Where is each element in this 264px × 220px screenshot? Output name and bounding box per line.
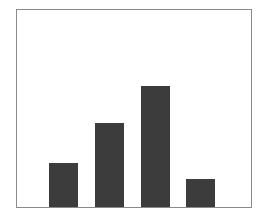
plot-area: 22426114 [16, 9, 252, 208]
bar-chart: 22426114 [0, 0, 264, 220]
bar-3: 61 [141, 86, 170, 207]
bar-1: 22 [49, 163, 78, 207]
bar-2: 42 [95, 123, 124, 207]
bar-4: 14 [186, 179, 215, 207]
